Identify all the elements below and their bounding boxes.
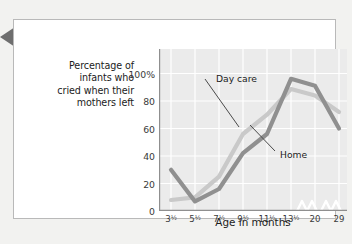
y-axis-title-line-3: cried when their bbox=[32, 85, 134, 97]
y-axis-title: Percentage of infants who cried when the… bbox=[32, 60, 134, 110]
y-tick-60: 60 bbox=[143, 123, 155, 134]
y-tick-100: 100% bbox=[128, 68, 155, 79]
figure-root: Percentage of infants who cried when the… bbox=[0, 0, 352, 244]
y-axis-title-line-1: Percentage of bbox=[32, 60, 134, 72]
series-annotation-day-care: Day care bbox=[216, 73, 257, 84]
x-axis-title: Age in months bbox=[159, 216, 347, 228]
plot-area: Day care Home 0 20 40 60 80 100% 3½5½7½9… bbox=[159, 49, 347, 211]
y-axis-title-line-2: infants who bbox=[32, 72, 134, 84]
y-tick-0: 0 bbox=[149, 206, 155, 217]
y-axis-title-line-4: mothers left bbox=[32, 97, 134, 109]
series-annotation-home: Home bbox=[280, 149, 307, 160]
y-tick-40: 40 bbox=[143, 151, 155, 162]
chart-card: Percentage of infants who cried when the… bbox=[13, 19, 336, 219]
y-tick-20: 20 bbox=[143, 178, 155, 189]
y-tick-80: 80 bbox=[143, 96, 155, 107]
